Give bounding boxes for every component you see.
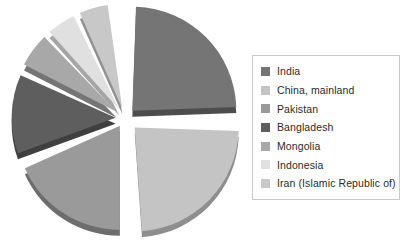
legend-swatch-icon <box>261 67 270 76</box>
legend-swatch-icon <box>261 104 270 113</box>
legend-item-mongolia[interactable]: Mongolia <box>261 138 393 155</box>
chart-legend: India China, mainland Pakistan Banglades… <box>252 55 400 200</box>
legend-swatch-icon <box>261 179 270 188</box>
legend-item-indonesia[interactable]: Indonesia <box>261 156 393 173</box>
legend-swatch-icon <box>261 142 270 151</box>
legend-item-label: China, mainland <box>277 85 354 96</box>
legend-item-label: Mongolia <box>277 141 320 152</box>
legend-item-label: Iran (Islamic Republic of) <box>277 178 396 189</box>
pie-slice-india[interactable] <box>132 7 236 111</box>
legend-item-pakistan[interactable]: Pakistan <box>261 100 393 117</box>
legend-item-label: Indonesia <box>277 160 323 171</box>
legend-item-india[interactable]: India <box>261 63 393 80</box>
pie-slices <box>12 5 239 231</box>
legend-swatch-icon <box>261 123 270 132</box>
legend-swatch-icon <box>261 160 270 169</box>
pie-chart-svg <box>0 0 250 245</box>
pie-chart-plot-area <box>0 0 250 245</box>
pie-chart-figure: India China, mainland Pakistan Banglades… <box>0 0 407 245</box>
legend-item-list: India China, mainland Pakistan Banglades… <box>261 63 393 192</box>
legend-item-iran[interactable]: Iran (Islamic Republic of) <box>261 175 393 192</box>
legend-item-bangladesh[interactable]: Bangladesh <box>261 119 393 136</box>
legend-item-label: Bangladesh <box>277 122 333 133</box>
legend-item-china-mainland[interactable]: China, mainland <box>261 82 393 99</box>
legend-swatch-icon <box>261 86 270 95</box>
legend-item-label: Pakistan <box>277 104 318 115</box>
legend-item-label: India <box>277 66 300 77</box>
pie-slice-china-mainland[interactable] <box>135 127 239 231</box>
